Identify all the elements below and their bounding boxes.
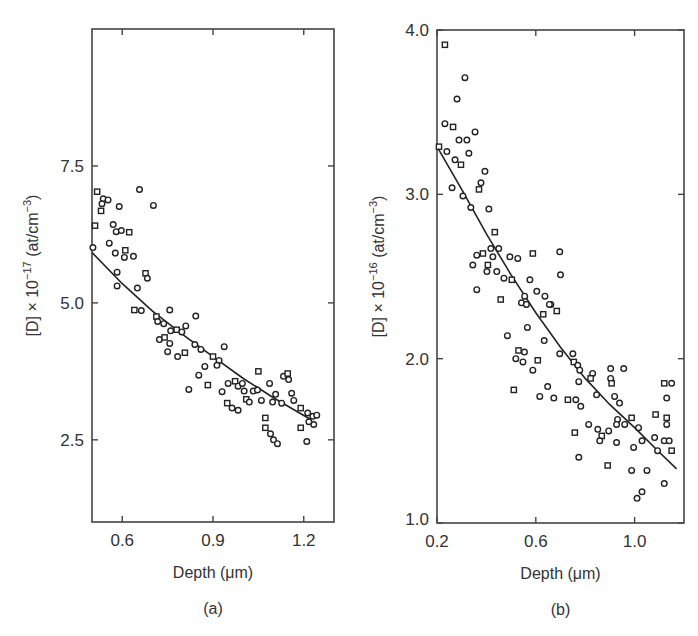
data-point xyxy=(557,351,563,357)
y-tick-label: 7.5 xyxy=(60,157,84,176)
data-point xyxy=(137,187,143,193)
data-point xyxy=(114,283,120,289)
data-point xyxy=(98,208,103,213)
data-point xyxy=(530,367,536,373)
data-point xyxy=(492,230,497,235)
data-point xyxy=(578,404,584,410)
data-point xyxy=(464,137,470,143)
data-point xyxy=(524,302,530,308)
data-point xyxy=(219,389,225,395)
data-point xyxy=(221,344,227,350)
data-point xyxy=(161,321,167,327)
data-point xyxy=(131,254,137,260)
data-point xyxy=(541,338,547,344)
data-point xyxy=(268,431,274,437)
data-point xyxy=(468,205,474,211)
data-point xyxy=(588,376,593,381)
data-point xyxy=(606,428,612,434)
data-point xyxy=(273,392,279,398)
x-tick-label: 0.2 xyxy=(425,532,449,551)
data-point xyxy=(515,256,521,262)
data-point xyxy=(470,262,476,268)
data-point xyxy=(286,377,292,383)
data-point xyxy=(259,398,265,404)
data-point xyxy=(256,369,261,374)
chart-panel-b: 0.20.61.01.02.03.04.0Depth (μm)(b)[D] × … xyxy=(367,21,684,618)
y-tick-label: 5.0 xyxy=(60,294,84,313)
data-point xyxy=(577,367,583,373)
data-point xyxy=(450,124,455,129)
data-point xyxy=(621,366,627,372)
data-point xyxy=(542,293,548,299)
data-point xyxy=(605,463,610,468)
data-point xyxy=(501,275,507,281)
data-point xyxy=(541,312,546,317)
data-point xyxy=(99,201,105,207)
data-point xyxy=(167,341,173,347)
data-point xyxy=(105,197,111,203)
x-tick-label: 1.2 xyxy=(292,531,316,550)
data-point xyxy=(612,394,618,400)
data-point xyxy=(622,422,628,428)
data-point xyxy=(235,407,241,413)
data-point xyxy=(167,307,173,313)
data-point xyxy=(594,392,600,398)
data-point xyxy=(247,399,253,405)
data-point xyxy=(557,249,563,255)
data-point xyxy=(614,440,620,446)
data-point xyxy=(285,371,290,376)
data-point xyxy=(298,405,303,410)
data-point xyxy=(639,438,645,444)
data-point xyxy=(586,422,592,428)
data-point xyxy=(214,363,220,369)
data-point xyxy=(255,387,261,393)
data-point xyxy=(241,388,247,394)
data-point xyxy=(449,185,455,191)
data-point xyxy=(558,272,564,278)
data-point xyxy=(537,394,543,400)
panel-label: (a) xyxy=(203,600,223,617)
data-point xyxy=(498,297,503,302)
data-point xyxy=(192,342,198,348)
data-point xyxy=(652,435,658,441)
data-point xyxy=(576,379,582,385)
data-point xyxy=(225,381,231,387)
data-point xyxy=(572,430,577,435)
data-point xyxy=(162,335,167,340)
data-point xyxy=(595,427,601,433)
data-point xyxy=(225,401,230,406)
data-point xyxy=(669,448,674,453)
data-point xyxy=(573,397,579,403)
data-point xyxy=(570,351,576,357)
data-points xyxy=(90,187,319,447)
data-point xyxy=(155,319,161,325)
data-point xyxy=(279,400,285,406)
data-point xyxy=(485,262,490,267)
data-point xyxy=(644,468,650,474)
data-point xyxy=(314,412,320,418)
data-point xyxy=(474,252,480,258)
data-point xyxy=(509,277,514,282)
data-point xyxy=(535,358,540,363)
data-point xyxy=(474,287,480,293)
data-point xyxy=(145,275,151,281)
data-point xyxy=(484,269,490,275)
data-point xyxy=(442,121,448,127)
data-point xyxy=(597,438,603,444)
data-point xyxy=(202,364,208,370)
x-tick-label: 0.6 xyxy=(524,532,548,551)
data-point xyxy=(629,468,635,474)
data-point xyxy=(275,441,281,447)
data-point xyxy=(165,349,171,355)
y-tick-label: 2.0 xyxy=(405,350,429,369)
data-point xyxy=(525,325,531,331)
data-point xyxy=(112,250,118,256)
data-point xyxy=(505,333,511,339)
data-point xyxy=(270,399,276,405)
y-tick-label: 1.0 xyxy=(405,510,429,529)
data-point xyxy=(135,285,141,291)
data-point xyxy=(291,398,297,404)
data-point xyxy=(193,313,199,319)
data-point xyxy=(534,288,540,294)
data-point xyxy=(661,481,667,487)
